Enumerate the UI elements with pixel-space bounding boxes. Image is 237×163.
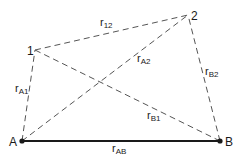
label-rA2: rA2 <box>137 52 151 66</box>
distance-diagram: A B 1 2 r12 rA2 rB2 rA1 rB1 rAB <box>0 0 237 163</box>
point-A-label: A <box>9 135 17 149</box>
label-rAB: rAB <box>112 142 126 156</box>
point-B-label: B <box>225 135 233 149</box>
label-rB2: rB2 <box>205 65 219 79</box>
point-1-label: 1 <box>27 44 34 58</box>
edge-rB1 <box>35 50 220 141</box>
point-B-dot <box>217 138 222 143</box>
label-rB1: rB1 <box>147 109 161 123</box>
label-rA1: rA1 <box>15 82 29 96</box>
point-2-label: 2 <box>191 9 198 23</box>
label-r12: r12 <box>100 16 113 30</box>
point-A-dot <box>19 138 24 143</box>
